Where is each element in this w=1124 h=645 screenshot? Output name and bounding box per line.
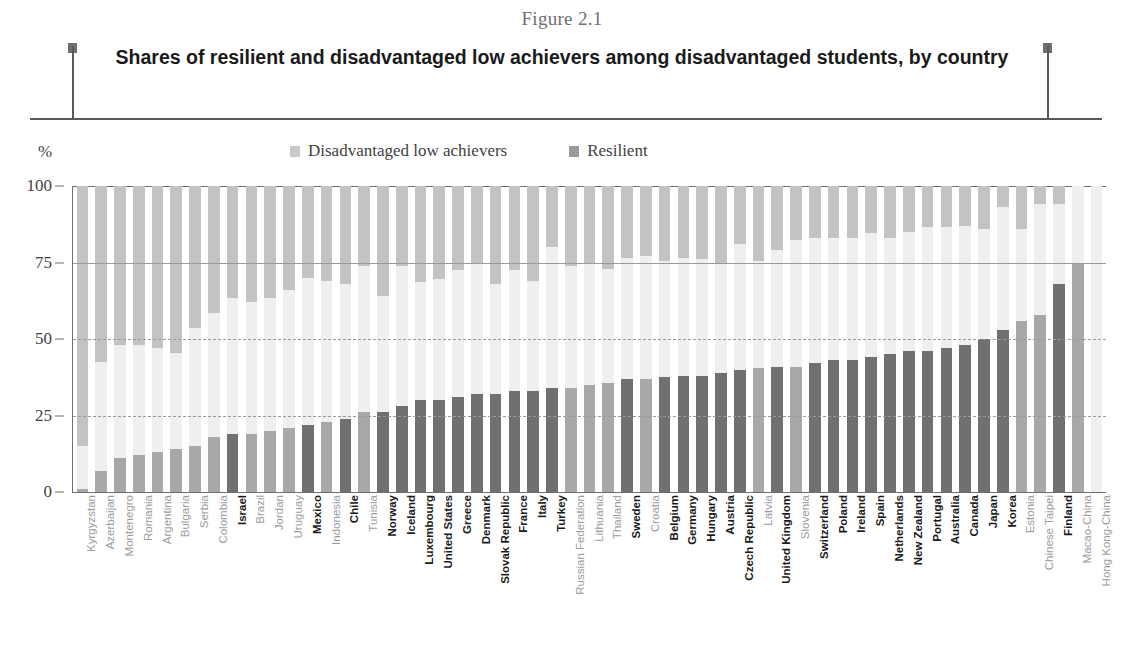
bar-segment-low-achievers [77, 186, 89, 446]
bar-segment-resilient [152, 452, 164, 492]
bar-segment-low-achievers [809, 186, 821, 238]
x-axis-country-label: United Kingdom [780, 495, 792, 584]
x-axis-country-label: Czech Republic [743, 495, 755, 581]
bar-segment-low-achievers [959, 186, 971, 226]
x-axis-country-label: Bulgaria [179, 495, 191, 537]
bar-segment-resilient [189, 446, 201, 492]
bar-segment-low-achievers [1034, 186, 1046, 204]
x-axis-country-label: Canada [968, 495, 980, 537]
bar-segment-resilient [659, 377, 671, 492]
bar-segment-low-achievers [152, 186, 164, 348]
bar-segment-resilient [959, 345, 971, 492]
x-axis-country-label: Norway [386, 495, 398, 537]
bar-segment-resilient [678, 376, 690, 492]
x-axis-country-label: Kyrgyzstan [85, 495, 97, 552]
bar-segment-low-achievers [189, 186, 201, 328]
x-axis-country-label: Belgium [668, 495, 680, 540]
y-axis-tick-label: 75 [35, 253, 52, 273]
x-axis-country-label: Greece [461, 495, 473, 534]
x-axis-country-label: Hong Kong-China [1100, 495, 1112, 586]
bar-segment-resilient [283, 428, 295, 492]
bar-segment-low-achievers [903, 186, 915, 232]
bar-segment-resilient [471, 394, 483, 492]
bar-segment-low-achievers [302, 186, 314, 278]
x-axis-country-label: Korea [1006, 495, 1018, 528]
x-axis-country-label: Chinese Taipei [1043, 495, 1055, 570]
legend-swatch-resilient-icon [569, 146, 579, 157]
bar-segment-resilient [377, 412, 389, 492]
y-axis-tick-label: 0 [44, 482, 53, 502]
y-axis-tick-label: 100 [27, 176, 53, 196]
bar-segment-low-achievers [340, 186, 352, 284]
bar-segment-low-achievers [264, 186, 276, 298]
figure-number: Figure 2.1 [0, 8, 1124, 30]
bar-segment-resilient [715, 373, 727, 492]
bar-segment-low-achievers [246, 186, 258, 302]
gridline [73, 339, 1106, 340]
bar-segment-resilient [340, 419, 352, 492]
bar-segment-low-achievers [1053, 186, 1065, 204]
x-axis-country-label: Austria [724, 495, 736, 535]
x-axis-country-label: Macao-China [1081, 495, 1093, 563]
bar-segment-low-achievers [95, 186, 107, 362]
bar-segment-resilient [1016, 321, 1028, 492]
bar-segment-resilient [208, 437, 220, 492]
bar-segment-low-achievers [415, 186, 427, 282]
y-axis-tick-mark [55, 262, 64, 263]
x-axis-country-label: New Zealand [912, 495, 924, 565]
y-axis-tick-mark [55, 339, 64, 340]
bar-segment-low-achievers [584, 186, 596, 264]
y-axis-tick-mark [55, 415, 64, 416]
x-axis-country-label: Slovenia [799, 495, 811, 539]
bar-segment-resilient [809, 363, 821, 492]
x-axis-country-label: Azerbaijan [104, 495, 116, 549]
bar-segment-resilient [114, 458, 126, 492]
x-axis-country-label: Iceland [405, 495, 417, 535]
bar-segment-low-achievers [771, 186, 783, 250]
x-axis-country-label: Hungary [705, 495, 717, 542]
bar-segment-resilient [396, 406, 408, 492]
x-axis-country-label: Japan [987, 495, 999, 528]
bar-segment-low-achievers [790, 186, 802, 240]
bar-segment-low-achievers [1016, 186, 1028, 229]
bar-segment-resilient [602, 383, 614, 492]
bar-segment-low-achievers [753, 186, 765, 261]
x-axis-country-label: Russian Federation [574, 495, 586, 595]
legend-item-disadvantaged-low-achievers: Disadvantaged low achievers [290, 141, 507, 161]
bar-segment-low-achievers [170, 186, 182, 353]
y-axis: 0255075100 [0, 186, 66, 492]
y-axis-tick-label: 50 [35, 329, 52, 349]
x-axis-country-label: Argentina [161, 495, 173, 544]
x-axis-country-label: Denmark [480, 495, 492, 544]
bar-segment-low-achievers [452, 186, 464, 270]
bar-segment-resilient [696, 376, 708, 492]
bar-segment-low-achievers [978, 186, 990, 229]
bar-segment-resilient [734, 370, 746, 492]
bar-segment-resilient [903, 351, 915, 492]
x-axis-country-label: Colombia [217, 495, 229, 544]
gridline [73, 263, 1106, 264]
bar-segment-resilient [640, 379, 652, 492]
bar-segment-resilient [884, 354, 896, 492]
bar-segment-resilient [1034, 315, 1046, 492]
bar-segment-resilient [771, 367, 783, 492]
bar-segment-low-achievers [621, 186, 633, 258]
bar-segment-low-achievers [133, 186, 145, 345]
bar-segment-resilient [1053, 284, 1065, 492]
bar-segment-resilient [321, 422, 333, 492]
title-rule [30, 118, 1102, 120]
x-axis-country-label: Brazil [254, 495, 266, 524]
bar-segment-low-achievers [696, 186, 708, 259]
bar-segment-low-achievers [640, 186, 652, 256]
x-axis-country-label: Portugal [931, 495, 943, 542]
legend-label-resilient: Resilient [587, 141, 647, 161]
bar-segment-resilient [997, 330, 1009, 492]
bar-segment-low-achievers [865, 186, 877, 233]
x-axis-country-label: United States [442, 495, 454, 569]
x-axis-country-label: Mexico [311, 495, 323, 534]
bar-segment-low-achievers [884, 186, 896, 238]
bar-segment-resilient [170, 449, 182, 492]
x-axis-country-label: Serbia [198, 495, 210, 528]
plot-area [72, 186, 1106, 493]
bar-segment-resilient [509, 391, 521, 492]
